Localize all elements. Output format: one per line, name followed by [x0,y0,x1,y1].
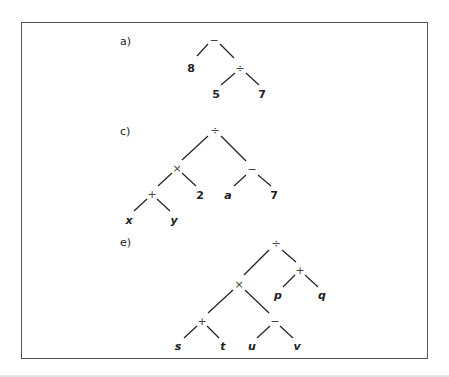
tree-edge [244,250,269,275]
tree-edge [134,199,147,211]
variable-leaf: y [170,214,178,227]
operator-node: − [247,163,256,176]
tree-edge [158,173,172,186]
number-leaf: 7 [258,88,266,101]
variable-leaf: u [248,340,256,353]
variable-leaf: x [124,214,133,227]
tree-label: a) [120,35,131,48]
tree-edge [245,290,269,313]
tree-edge [283,275,295,287]
operator-node: ÷ [210,124,219,137]
variable-leaf: a [224,189,231,202]
operator-node: − [270,315,279,328]
tree-edge [221,73,235,85]
tree-a: a)−8÷57 [120,34,266,101]
tree-edge [221,136,246,161]
operator-node: × [234,278,243,291]
operator-node: + [295,264,304,277]
number-leaf: 2 [196,189,204,202]
variable-leaf: v [293,340,301,353]
tree-edge [246,73,259,85]
tree-e: e)÷+pq×+−stuv [120,236,326,353]
variable-leaf: s [175,340,182,353]
operator-node: − [209,34,218,47]
operator-node: + [147,188,156,201]
tree-edge [305,275,318,287]
tree-edge [220,44,234,58]
variable-leaf: q [318,289,326,302]
tree-edge [282,250,296,262]
tree-label: c) [120,125,130,138]
tree-edge [157,199,170,211]
number-leaf: 8 [187,62,195,75]
number-leaf: 5 [212,88,220,101]
tree-c: c)÷×−+2a7xy [120,124,278,227]
operator-node: ÷ [235,62,244,75]
tree-edge [257,326,270,338]
variable-leaf: t [220,340,226,353]
operator-node: + [197,315,206,328]
expression-trees-figure: a)−8÷57 c)÷×−+2a7xy e)÷+pq×+−stuv [0,0,449,377]
tree-edge [182,136,208,160]
tree-edge [207,326,219,338]
variable-leaf: p [273,289,282,302]
tree-edge [280,326,293,338]
tree-edge [258,175,271,186]
tree-edge [197,44,208,56]
tree-edge [184,326,197,338]
tree-edge [234,175,246,186]
number-leaf: 7 [270,189,278,202]
tree-edge [208,290,233,313]
tree-label: e) [120,236,131,249]
operator-node: ÷ [271,237,280,250]
tree-edge [182,173,196,186]
operator-node: × [172,162,181,175]
